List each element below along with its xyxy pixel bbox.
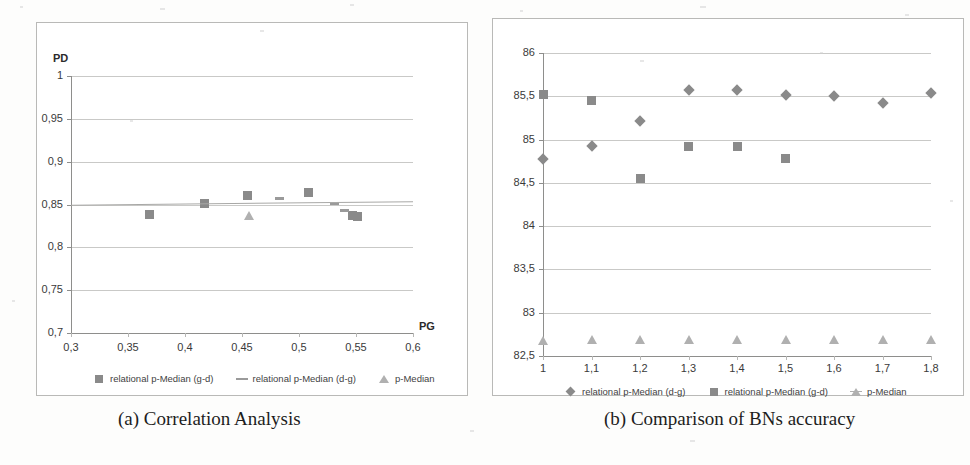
legend-label: relational p-Median (d-g) [582, 386, 686, 397]
data-point-s2 [635, 335, 645, 344]
x-tick-mark [737, 356, 738, 360]
figure-page: 0,70,750,80,850,90,9510,30,350,40,450,50… [0, 0, 970, 465]
legend-label: relational p-Median (g-d) [725, 386, 829, 397]
x-tick-mark [413, 333, 414, 337]
data-point-s0 [537, 153, 548, 164]
scan-speckle [905, 14, 909, 16]
scan-speckle [820, 52, 823, 54]
x-tick-mark [71, 333, 72, 337]
caption-a: (a) Correlation Analysis [118, 408, 301, 430]
data-point-s0 [634, 116, 645, 127]
chart-legend: relational p-Median (g-d)relational p-Me… [93, 373, 457, 384]
data-point-s0 [780, 89, 791, 100]
x-tick-label: 1,3 [669, 362, 709, 374]
x-tick-label: 0,3 [51, 341, 91, 353]
y-tick-label: 0,75 [19, 283, 63, 295]
x-tick-mark [356, 333, 357, 337]
y-tick-label: 82,5 [491, 349, 535, 361]
scan-speckle [160, 8, 165, 10]
x-tick-mark [834, 356, 835, 360]
data-point-s1 [636, 174, 645, 183]
gridline-y [543, 183, 931, 184]
legend-item[interactable]: relational p-Median (d-g) [236, 373, 357, 384]
scan-speckle [950, 200, 953, 202]
gridline-y [71, 290, 413, 291]
x-tick-mark [242, 333, 243, 337]
x-tick-label: 0,5 [279, 341, 319, 353]
legend-item[interactable]: p-Median [378, 373, 435, 384]
data-point-s1 [275, 197, 284, 200]
data-point-s0 [877, 98, 888, 109]
legend-label: p-Median [867, 386, 907, 397]
x-tick-label: 1,8 [911, 362, 951, 374]
legend-item[interactable]: relational p-Median (g-d) [93, 373, 214, 384]
gridline-y [71, 247, 413, 248]
y-tick-label: 0,7 [19, 326, 63, 338]
y-tick-label: 84 [491, 219, 535, 231]
x-tick-mark [689, 356, 690, 360]
x-tick-label: 1 [523, 362, 563, 374]
x-tick-label: 1,4 [717, 362, 757, 374]
x-tick-label: 0,45 [222, 341, 262, 353]
scan-speckle [640, 60, 644, 62]
scan-speckle [130, 120, 133, 122]
legend-item[interactable]: relational p-Median (g-d) [708, 386, 829, 397]
data-point-s2 [538, 336, 548, 345]
chart-panel-b: 82,58383,58484,58585,58611,11,21,31,41,5… [492, 18, 964, 396]
gridline-y [543, 53, 931, 54]
x-tick-mark [543, 356, 544, 360]
data-point-s1 [733, 142, 742, 151]
y-tick-label: 86 [491, 46, 535, 58]
y-tick-label: 0,8 [19, 240, 63, 252]
legend-diamond-icon [565, 387, 577, 397]
legend-label: relational p-Median (d-g) [253, 373, 357, 384]
legend-label: p-Median [395, 373, 435, 384]
y-tick-label: 84,5 [491, 176, 535, 188]
legend-item[interactable]: relational p-Median (d-g) [565, 386, 686, 397]
data-point-s2 [926, 335, 936, 344]
y-tick-label: 0,85 [19, 198, 63, 210]
data-point-s2 [781, 335, 791, 344]
gridline-y [71, 162, 413, 163]
plot-area-a: 0,70,750,80,850,90,9510,30,350,40,450,50… [71, 76, 413, 333]
data-point-s1 [684, 142, 693, 151]
scan-speckle [350, 4, 354, 6]
legend-square-icon [708, 387, 720, 397]
x-tick-mark [883, 356, 884, 360]
y-tick-label: 85,5 [491, 89, 535, 101]
x-tick-label: 1,2 [620, 362, 660, 374]
data-point-s2 [587, 335, 597, 344]
scan-speckle [520, 10, 523, 12]
x-tick-mark [185, 333, 186, 337]
x-tick-mark [931, 356, 932, 360]
scan-speckle [20, 6, 23, 8]
x-axis-title: PG [419, 320, 435, 332]
data-point-s1 [781, 154, 790, 163]
data-point-s0 [304, 188, 313, 197]
gridline-y [71, 76, 413, 77]
gridline-y [71, 119, 413, 120]
data-point-s1 [340, 209, 349, 212]
legend-triangle-icon [378, 374, 390, 384]
scan-speckle [690, 440, 695, 442]
x-tick-label: 1,1 [572, 362, 612, 374]
scan-speckle [700, 6, 706, 8]
gridline-y [543, 140, 931, 141]
x-tick-label: 1,7 [863, 362, 903, 374]
gridline-y [543, 226, 931, 227]
legend-item[interactable]: p-Median [850, 386, 907, 397]
y-tick-label: 0,9 [19, 155, 63, 167]
y-tick-label: 0,95 [19, 112, 63, 124]
gridline-y [543, 313, 931, 314]
x-tick-mark [786, 356, 787, 360]
x-tick-label: 1,5 [766, 362, 806, 374]
data-point-s0 [145, 210, 154, 219]
data-point-s2 [732, 335, 742, 344]
x-tick-mark [640, 356, 641, 360]
plot-area-b: 82,58383,58484,58585,58611,11,21,31,41,5… [543, 53, 931, 356]
data-point-s0 [731, 85, 742, 96]
data-point-s2 [829, 335, 839, 344]
data-point-s0 [243, 191, 252, 200]
scan-speckle [470, 430, 474, 432]
data-point-s0 [586, 140, 597, 151]
